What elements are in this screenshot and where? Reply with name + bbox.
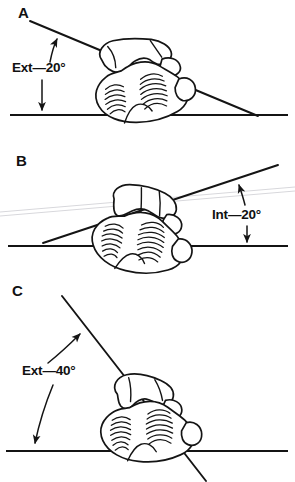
- panel-a-upper-leader-arrow: [50, 39, 57, 62]
- anatomical-angle-figure: A Ext—20°: [0, 0, 295, 482]
- panel-b: B Int—20°: [8, 152, 288, 278]
- panel-b-letter: B: [16, 152, 27, 169]
- panel-c: C Ext—40°: [6, 282, 288, 481]
- panel-c-angle-label: Ext—40°: [22, 363, 76, 378]
- panel-c-upper-leader-arrow: [48, 334, 80, 363]
- panel-a-letter: A: [18, 4, 29, 21]
- panel-c-letter: C: [12, 282, 23, 299]
- panel-a-angle-label: Ext—20°: [12, 60, 66, 75]
- figure-canvas: A Ext—20°: [0, 0, 295, 482]
- panel-b-vertebra: [89, 181, 198, 278]
- panel-a: A Ext—20°: [10, 4, 288, 128]
- vertebra-right-facet-lobe: [181, 422, 202, 446]
- panel-c-lower-leader-arrow: [35, 385, 53, 443]
- panel-a-vertebra: [88, 30, 199, 128]
- panel-b-angle-label: Int—20°: [212, 207, 261, 222]
- panel-c-vertebra: [99, 372, 203, 464]
